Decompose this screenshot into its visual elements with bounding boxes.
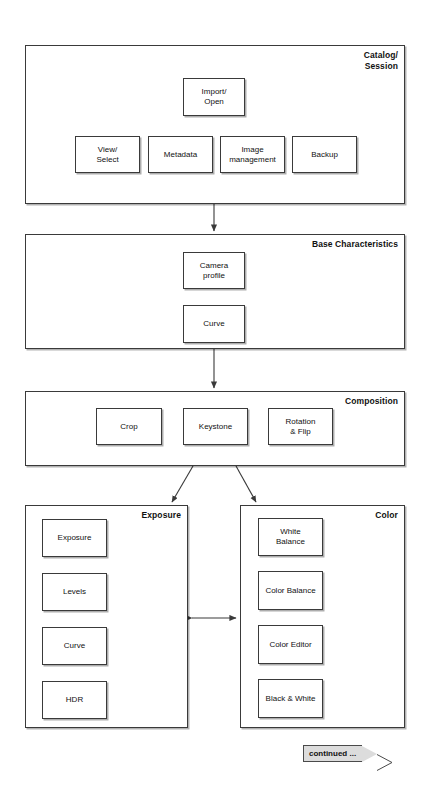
section-label-composition: Composition bbox=[345, 396, 398, 407]
node-color-balance[interactable]: Color Balance bbox=[258, 571, 323, 610]
node-keystone[interactable]: Keystone bbox=[183, 408, 248, 445]
node-rotation-flip[interactable]: Rotation & Flip bbox=[268, 408, 333, 445]
edge-composition-to-exposure bbox=[172, 466, 193, 502]
node-hdr[interactable]: HDR bbox=[42, 681, 107, 719]
node-backup[interactable]: Backup bbox=[292, 136, 357, 173]
continued-label: continued ... bbox=[303, 745, 362, 762]
section-label-catalog-session: Catalog/ Session bbox=[364, 50, 398, 71]
node-exposure-curve[interactable]: Curve bbox=[42, 627, 107, 665]
continued-arrow-outline bbox=[377, 754, 393, 771]
edge-composition-to-color bbox=[236, 466, 256, 502]
node-black-white[interactable]: Black & White bbox=[258, 679, 323, 718]
node-white-balance[interactable]: White Balance bbox=[258, 518, 323, 556]
node-crop[interactable]: Crop bbox=[96, 408, 162, 445]
node-color-editor[interactable]: Color Editor bbox=[258, 625, 323, 664]
section-label-exposure: Exposure bbox=[141, 510, 181, 521]
section-catalog-session: Catalog/ Session bbox=[25, 45, 405, 204]
diagram-canvas: Catalog/ Session Import/ Open View/ Sele… bbox=[0, 0, 428, 789]
node-camera-profile[interactable]: Camera profile bbox=[183, 252, 245, 289]
section-label-color: Color bbox=[375, 510, 398, 521]
node-metadata[interactable]: Metadata bbox=[148, 136, 213, 173]
node-view-select[interactable]: View/ Select bbox=[75, 136, 140, 173]
node-levels[interactable]: Levels bbox=[42, 573, 107, 611]
section-label-base-characteristics: Base Characteristics bbox=[312, 239, 398, 250]
node-exposure[interactable]: Exposure bbox=[42, 519, 107, 557]
node-base-curve[interactable]: Curve bbox=[183, 305, 245, 343]
continued-banner[interactable]: continued ... bbox=[303, 745, 377, 762]
continued-arrow-icon bbox=[362, 746, 377, 762]
node-image-management[interactable]: Image management bbox=[220, 136, 285, 173]
node-import-open[interactable]: Import/ Open bbox=[183, 78, 245, 116]
